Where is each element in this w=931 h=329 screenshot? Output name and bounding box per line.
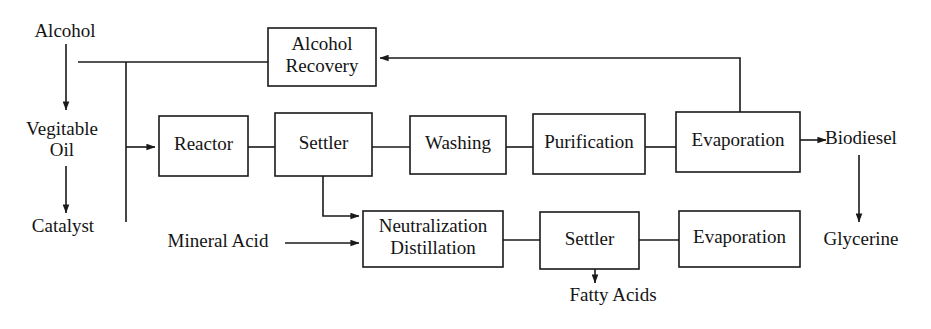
flow-diagram-canvas: AlcoholRecoveryReactorSettlerWashingPuri… [0,0,931,329]
process-box-washing[interactable]: Washing [410,116,506,174]
stream-label-glycerine: Glycerine [824,228,899,249]
stream-label-mineral-acid: Mineral Acid [168,230,269,251]
box-label-text: Settler [565,228,615,249]
stream-label-vegitable-oil: Vegitable [26,118,98,139]
box-label-text: Evaporation [693,226,786,247]
stream-label-catalyst: Catalyst [32,215,95,236]
process-box-settler-main[interactable]: Settler [275,113,372,176]
box-label-text: Recovery [286,55,359,76]
stream-label-biodiesel: Biodiesel [825,127,897,148]
process-box-purification[interactable]: Purification [533,114,645,174]
process-box-evaporation-bottom[interactable]: Evaporation [679,211,800,267]
box-label-text: Evaporation [692,129,785,150]
stream-label-alcohol: Alcohol [34,20,95,41]
box-label-text: Reactor [174,133,234,154]
process-flow-diagram: AlcoholRecoveryReactorSettlerWashingPuri… [0,0,931,329]
box-label-text: Distillation [390,237,476,258]
box-label-text: Settler [299,132,349,153]
stream-label-vegitable-oil-2: Oil [50,139,74,160]
box-label-text: Washing [425,132,492,153]
box-label-text: Neutralization [379,215,488,236]
process-box-reactor[interactable]: Reactor [159,116,248,176]
process-box-settler-bottom[interactable]: Settler [540,212,639,269]
connector-settler-to-neutralization [323,176,359,216]
process-box-alcohol-recovery[interactable]: AlcoholRecovery [268,28,376,86]
stream-label-fatty-acids: Fatty Acids [569,284,656,305]
box-label-text: Alcohol [291,33,352,54]
connector-evaporation-recycle [380,58,740,112]
process-box-neutralization-distillation[interactable]: NeutralizationDistillation [363,211,503,267]
box-label-text: Purification [544,131,634,152]
process-box-evaporation-top[interactable]: Evaporation [676,112,800,172]
